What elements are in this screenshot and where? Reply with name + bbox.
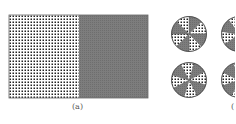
panel-b-pies [172, 17, 236, 98]
gray-region [79, 15, 148, 98]
pie-2 [172, 63, 207, 98]
pie-1 [172, 17, 207, 52]
dotted-region [9, 15, 79, 98]
figure-canvas [0, 0, 235, 124]
pie-3 [222, 17, 236, 52]
panel-a-rectangle [9, 15, 148, 98]
caption-a: (a) [72, 102, 83, 111]
pie-4 [222, 63, 236, 98]
caption-b: ( [231, 102, 234, 111]
